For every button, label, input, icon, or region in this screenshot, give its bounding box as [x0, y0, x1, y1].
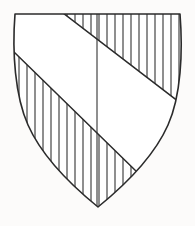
shield-drawing — [0, 0, 195, 226]
heraldic-shield-figure — [0, 0, 195, 226]
